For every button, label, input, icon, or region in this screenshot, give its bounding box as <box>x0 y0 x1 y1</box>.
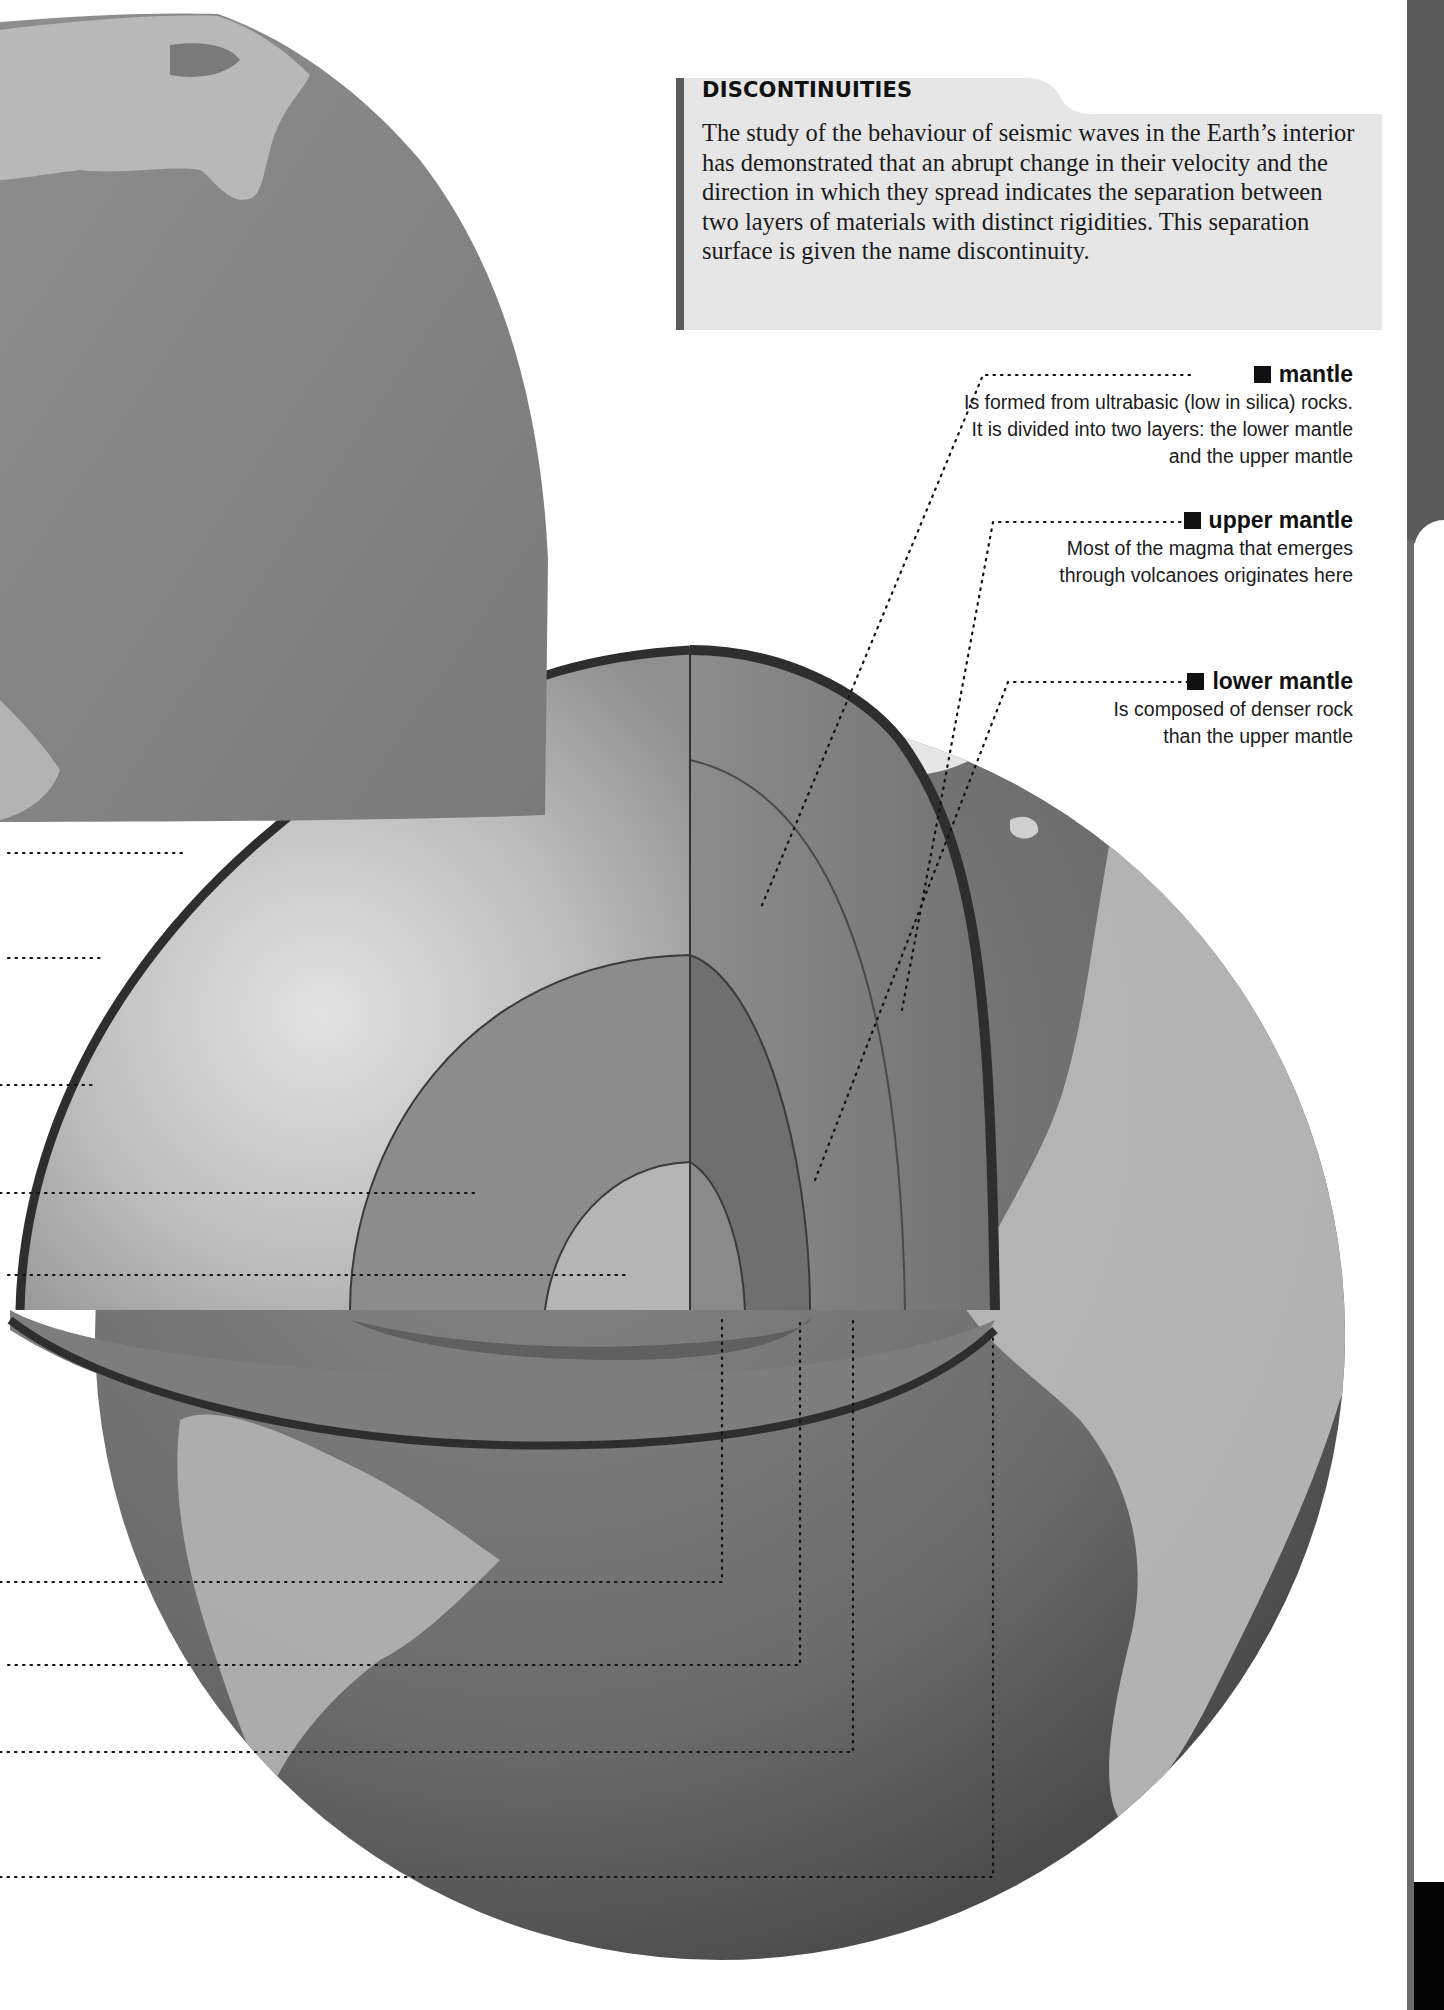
infobox-title: DISCONTINUITIES <box>702 78 912 102</box>
page-edge-tab <box>1407 0 1444 2010</box>
page: DISCONTINUITIES The study of the behavio… <box>0 0 1444 2010</box>
infobox-body: The study of the behaviour of seismic wa… <box>702 118 1362 266</box>
globe-segment-top-left <box>0 13 548 822</box>
bullet-square-icon <box>1254 366 1271 383</box>
callout-title: lower mantle <box>1187 668 1353 694</box>
callout-lower-mantle: lower mantle Is composed of denser rock … <box>1080 668 1353 750</box>
callout-mantle-description: Is formed from ultrabasic (low in silica… <box>960 389 1353 470</box>
page-edge-line <box>1407 540 1414 2010</box>
bullet-square-icon <box>1184 512 1201 529</box>
infobox-accent-bar <box>676 78 684 330</box>
discontinuities-infobox: DISCONTINUITIES The study of the behavio… <box>676 78 1382 330</box>
callout-mantle: mantle Is formed from ultrabasic (low in… <box>960 361 1353 470</box>
callout-upper-mantle-description: Most of the magma that emerges through v… <box>1020 535 1353 589</box>
section-tab-dark <box>1407 0 1444 543</box>
section-tab-black <box>1414 1882 1444 2010</box>
bullet-square-icon <box>1187 673 1204 690</box>
callout-upper-mantle: upper mantle Most of the magma that emer… <box>1020 507 1353 589</box>
callout-title: upper mantle <box>1184 507 1353 533</box>
callout-upper-mantle-title: upper mantle <box>1209 507 1353 533</box>
callout-lower-mantle-title: lower mantle <box>1212 668 1353 694</box>
callout-mantle-title: mantle <box>1279 361 1353 387</box>
callout-lower-mantle-description: Is composed of denser rock than the uppe… <box>1080 696 1353 750</box>
callout-title: mantle <box>1254 361 1353 387</box>
